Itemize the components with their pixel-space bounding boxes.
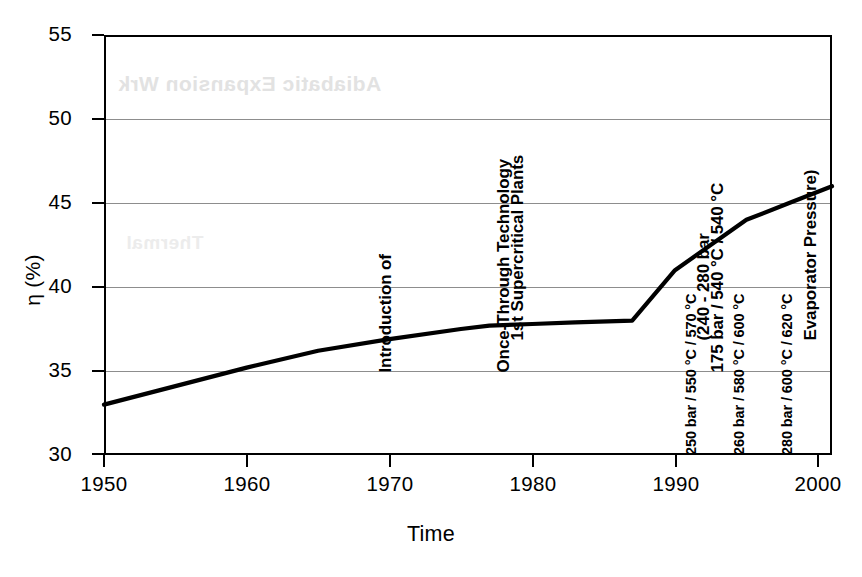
annotation-steam-parameters-1990: 250 bar / 550 °C / 570 °C: [683, 294, 700, 455]
efficiency-vs-time-chart: Adiabatic Expansion Wrk Thermal 55 50 45…: [0, 0, 862, 577]
efficiency-curve: [0, 0, 862, 577]
annotation-line: Evaporator Pressure): [800, 170, 821, 341]
annotation-line: 1st Supercritical Plants: [508, 155, 529, 341]
annotation-steam-parameters-1998: 280 bar / 600 °C / 620 °C: [779, 294, 796, 455]
annotation-steam-parameters-1995: 260 bar / 580 °C / 600 °C: [731, 294, 748, 455]
annotation-line: Introduction of: [376, 254, 397, 372]
